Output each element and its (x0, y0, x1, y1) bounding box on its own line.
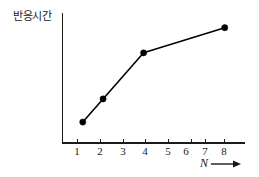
x-tick-label-1: 1 (74, 145, 80, 157)
x-axis-label-group: N (200, 156, 241, 171)
x-axis-ticks (78, 139, 225, 144)
data-point (222, 25, 228, 31)
x-tick-label-6: 6 (183, 145, 189, 157)
right-arrow-icon (211, 159, 241, 169)
chart-figure: 1 2 3 4 5 6 7 8 반응시간 N (0, 0, 259, 177)
x-axis-label: N (200, 156, 208, 171)
data-point (100, 96, 106, 102)
data-series-line (83, 28, 225, 122)
y-axis-label: 반응시간 (13, 10, 52, 23)
data-point (141, 50, 147, 56)
x-tick-label-5: 5 (165, 145, 171, 157)
line-chart-plot: 1 2 3 4 5 6 7 8 (0, 0, 259, 177)
data-series-markers (80, 25, 228, 126)
x-tick-label-3: 3 (120, 145, 126, 157)
x-tick-label-2: 2 (97, 145, 103, 157)
x-tick-label-4: 4 (142, 145, 148, 157)
data-point (80, 119, 86, 125)
